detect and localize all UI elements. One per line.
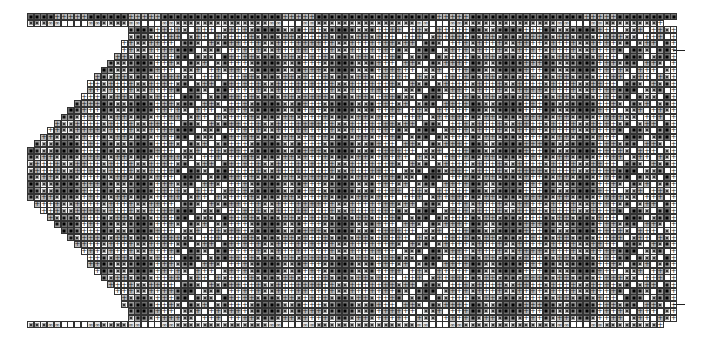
row-marker-line <box>673 304 685 305</box>
chart-cell <box>657 321 664 328</box>
chart-cell <box>670 315 677 322</box>
pattern-chart <box>0 0 708 355</box>
row-marker-line <box>673 50 685 51</box>
chart-cell <box>670 13 677 20</box>
